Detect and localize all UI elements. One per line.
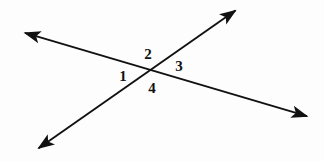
ascending-line (39, 11, 236, 149)
lines-canvas (0, 0, 324, 161)
angle-label-3: 3 (175, 59, 183, 74)
descending-line (25, 33, 307, 116)
angle-label-1: 1 (119, 69, 127, 84)
geometry-figure: 1 2 3 4 (0, 0, 324, 161)
angle-label-4: 4 (148, 81, 156, 96)
angle-label-2: 2 (144, 47, 152, 62)
